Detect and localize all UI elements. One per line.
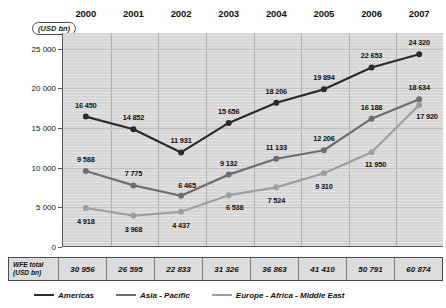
y-axis-tick-mark xyxy=(58,247,62,248)
totals-cell-2004: 36 863 xyxy=(251,258,299,280)
totals-cell-2007: 60 874 xyxy=(395,258,442,280)
totals-table: WFE total (USD bn) 30 95626 59522 83331 … xyxy=(8,257,443,281)
year-label-2005: 2005 xyxy=(300,6,348,22)
year-label-2004: 2004 xyxy=(253,6,301,22)
legend-item-americas[interactable]: Americas xyxy=(34,291,94,300)
y-tick-holder xyxy=(62,207,63,208)
legend-label: Americas xyxy=(58,291,94,300)
y-axis-tick-0: 0 xyxy=(0,243,62,252)
y-axis-tick-mark xyxy=(58,128,62,129)
legend-item-asia-pacific[interactable]: Asia - Pacific xyxy=(116,291,190,300)
y-tick-holder xyxy=(62,88,63,89)
year-label-2006: 2006 xyxy=(348,6,396,22)
year-label-2007: 2007 xyxy=(395,6,443,22)
legend-swatch xyxy=(34,294,54,297)
y-axis-tick-mark xyxy=(58,207,62,208)
y-tick-holder xyxy=(62,168,63,169)
totals-header-line2: (USD bn) xyxy=(13,269,58,277)
totals-cells: 30 95626 59522 83331 32636 86341 41050 7… xyxy=(59,258,442,280)
y-axis-tick-25000: 25 000 xyxy=(0,44,62,53)
y-axis-tick-20000: 20 000 xyxy=(0,84,62,93)
year-header-row: 20002001200220032004200520062007 xyxy=(62,6,443,22)
chart-legend: AmericasAsia - PacificEurope - Africa - … xyxy=(34,288,434,302)
y-axis-tick-layer: 05 00010 00015 00020 00025 000 xyxy=(62,33,443,247)
totals-cell-2000: 30 956 xyxy=(59,258,107,280)
legend-label: Europe - Africa - Middle East xyxy=(236,291,345,300)
legend-swatch xyxy=(212,294,232,297)
totals-cell-2005: 41 410 xyxy=(299,258,347,280)
y-axis-tick-5000: 5 000 xyxy=(0,203,62,212)
chart-page: 20002001200220032004200520062007 (USD bn… xyxy=(0,0,446,308)
y-axis-tick-10000: 10 000 xyxy=(0,163,62,172)
totals-header-line1: WFE total xyxy=(13,261,58,269)
plot-wrapper: 16 45014 85211 93115 65618 20619 89422 6… xyxy=(62,33,443,247)
y-axis-tick-mark xyxy=(58,49,62,50)
y-tick-holder xyxy=(62,128,63,129)
totals-cell-2006: 50 791 xyxy=(347,258,395,280)
y-axis-tick-15000: 15 000 xyxy=(0,124,62,133)
year-label-2000: 2000 xyxy=(62,6,110,22)
year-label-2002: 2002 xyxy=(157,6,205,22)
y-axis-tick-mark xyxy=(58,168,62,169)
totals-cell-2003: 31 326 xyxy=(203,258,251,280)
totals-cell-2001: 26 595 xyxy=(107,258,155,280)
totals-header-cell: WFE total (USD bn) xyxy=(9,258,59,280)
legend-swatch xyxy=(116,294,136,297)
totals-cell-2002: 22 833 xyxy=(155,258,203,280)
legend-label: Asia - Pacific xyxy=(140,291,190,300)
y-axis-tick-mark xyxy=(58,88,62,89)
legend-item-europe-africa-middle-east[interactable]: Europe - Africa - Middle East xyxy=(212,291,345,300)
y-tick-holder xyxy=(62,247,63,248)
y-tick-holder xyxy=(62,49,63,50)
year-label-2003: 2003 xyxy=(205,6,253,22)
year-label-2001: 2001 xyxy=(110,6,158,22)
